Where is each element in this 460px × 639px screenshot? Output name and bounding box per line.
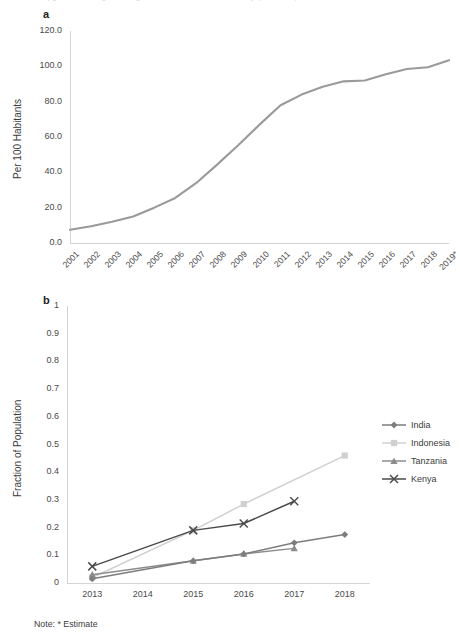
legend-label: Indonesia [411,438,450,448]
chart-b-legend: IndiaIndonesiaTanzaniaKenya [381,416,450,488]
legend-marker-diamond-icon [381,418,407,432]
legend-label: India [411,420,431,430]
legend-item-kenya[interactable]: Kenya [381,470,450,488]
legend-marker-triangle-icon [381,454,407,468]
figure-panel-container: supgentinal mergen tomigrated in Stitems… [0,0,460,639]
legend-item-indonesia[interactable]: Indonesia [381,434,450,452]
legend-item-tanzania[interactable]: Tanzania [381,452,450,470]
legend-item-india[interactable]: India [381,416,450,434]
legend-label: Kenya [411,474,437,484]
cropped-header-text: supgentinal mergen tomigrated in Stitems… [38,0,298,1]
legend-label: Tanzania [411,456,447,466]
cropped-header-band: supgentinal mergen tomigrated in Stitems… [0,0,460,8]
figure-footnote: Note: * Estimate [34,619,98,629]
chart-a-plot-area [0,18,460,288]
legend-marker-cross-icon [381,472,407,486]
legend-marker-square-icon [381,436,407,450]
chart-a-mobile-subscriptions: Per 100 Habitants 0.020.040.060.080.0100… [0,18,460,288]
